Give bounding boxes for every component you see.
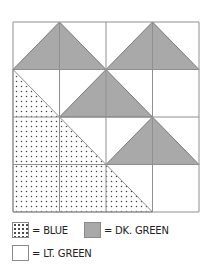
legend-label-dark-green: = DK. GREEN: [104, 225, 169, 236]
light-green-swatch: [12, 245, 29, 261]
dark-green-swatch: [84, 222, 101, 238]
legend-label-light-green: = LT. GREEN: [32, 248, 92, 259]
blue-swatch: [12, 222, 29, 238]
quilt-block-diagram: [0, 0, 213, 220]
legend-label-blue: = BLUE: [32, 225, 68, 236]
legend-row-1: = BLUE = DK. GREEN: [12, 222, 169, 238]
legend-row-2: = LT. GREEN: [12, 245, 92, 261]
